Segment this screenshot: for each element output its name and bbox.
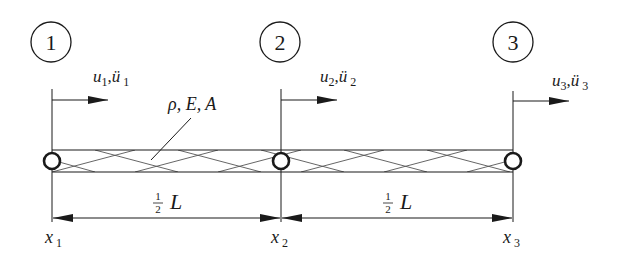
svg-text:2: 2 <box>275 30 286 55</box>
svg-text:2: 2 <box>385 203 391 215</box>
bar-properties-label: ρ, E, A <box>167 94 217 114</box>
svg-text:1: 1 <box>46 30 57 55</box>
bar-element-diagram: 1 2 3 u1,ü1 u2,ü2 u3,ü3 <box>0 0 628 264</box>
svg-text:L: L <box>169 189 182 214</box>
node-1-number: 1 <box>31 22 71 62</box>
svg-text:1: 1 <box>385 190 391 202</box>
bar-element <box>52 150 550 172</box>
disp-label-1: u1,ü1 <box>93 67 129 89</box>
dimension-label-2: 1 2 L <box>383 189 412 215</box>
coord-label-2: x2 <box>270 227 288 250</box>
disp-label-2: u2,ü2 <box>320 67 356 89</box>
node-3-joint <box>505 153 521 169</box>
coord-label-1: x1 <box>44 227 62 250</box>
node-2-number: 2 <box>260 22 300 62</box>
svg-text:1: 1 <box>155 190 161 202</box>
dimension-label-1: 1 2 L <box>153 189 182 215</box>
property-leader <box>151 118 191 160</box>
svg-text:3: 3 <box>508 30 519 55</box>
node-2-joint <box>273 153 289 169</box>
disp-label-3: u3,ü3 <box>552 71 588 93</box>
svg-text:L: L <box>399 189 412 214</box>
coord-label-3: x3 <box>502 227 520 250</box>
node-1-joint <box>44 153 60 169</box>
svg-text:2: 2 <box>155 203 161 215</box>
node-3-number: 3 <box>493 22 533 62</box>
